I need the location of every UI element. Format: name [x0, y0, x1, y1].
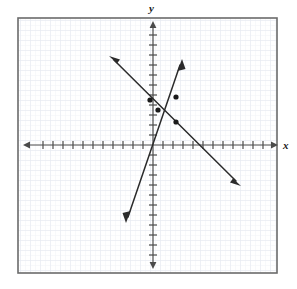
- x-axis-label: x: [283, 140, 289, 151]
- y-axis-label: y: [149, 3, 154, 14]
- point-on-ascending-line: [173, 94, 178, 99]
- point-lower-right: [173, 119, 178, 124]
- point-upper-left: [147, 97, 152, 102]
- point-intersection: [155, 107, 160, 112]
- coordinate-plane-figure: [0, 0, 297, 289]
